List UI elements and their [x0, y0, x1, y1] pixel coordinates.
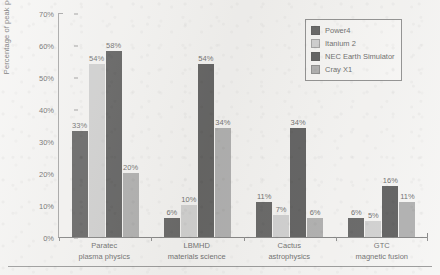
bar[interactable]: 5%: [365, 221, 381, 237]
y-axis-tick-label: 50%: [39, 74, 54, 83]
bar-value-label: 7%: [276, 205, 287, 214]
legend-item-label: NEC Earth Simulator: [325, 52, 395, 61]
category-field: materials science: [151, 252, 244, 263]
y-axis-tick-label: 10%: [39, 202, 54, 211]
bar[interactable]: 10%: [181, 205, 197, 237]
y-axis-tick-label: 70%: [39, 10, 54, 19]
grouped-bar-chart: Percentage of peak performance 0%10%20%3…: [0, 0, 440, 275]
category-name: GTC: [336, 241, 429, 252]
legend-item[interactable]: NEC Earth Simulator: [311, 50, 395, 63]
x-axis-category-labels: Paratecplasma physicsLBMHDmaterials scie…: [58, 241, 428, 262]
x-axis-category-label: Cactusastrophysics: [243, 241, 336, 262]
bar-value-label: 54%: [198, 54, 213, 63]
bar-value-label: 5%: [368, 211, 379, 220]
bar[interactable]: 7%: [273, 215, 289, 237]
category-name: Paratec: [58, 241, 151, 252]
y-axis-tick-label: 60%: [39, 42, 54, 51]
y-axis-tick-labels: 0%10%20%30%40%50%60%70%: [18, 14, 54, 238]
bar-value-label: 54%: [89, 54, 104, 63]
bar-slot: 10%: [181, 14, 197, 237]
legend-item[interactable]: Cray X1: [311, 63, 395, 76]
y-axis-tick-label: 40%: [39, 106, 54, 115]
bar[interactable]: 20%: [123, 173, 139, 237]
bar-slot: 11%: [256, 14, 272, 237]
bar-slot: 54%: [198, 14, 214, 237]
legend-item[interactable]: Power4: [311, 24, 395, 37]
bar-slot: 58%: [106, 14, 122, 237]
bar-value-label: 6%: [310, 208, 321, 217]
bar-slot: 6%: [164, 14, 180, 237]
bar-value-label: 16%: [383, 176, 398, 185]
category-field: magnetic fusion: [336, 252, 429, 263]
footer-divider: [8, 266, 432, 267]
legend-item-label: Power4: [325, 26, 350, 35]
bar-value-label: 34%: [291, 118, 306, 127]
bar[interactable]: 34%: [290, 128, 306, 237]
category-name: Cactus: [243, 241, 336, 252]
bar[interactable]: 58%: [106, 51, 122, 237]
bar-value-label: 11%: [400, 192, 414, 201]
x-axis-category-label: LBMHDmaterials science: [151, 241, 244, 262]
legend-swatch-icon: [311, 39, 320, 48]
bar-value-label: 6%: [351, 208, 362, 217]
bar[interactable]: 6%: [307, 218, 323, 237]
bar[interactable]: 16%: [382, 186, 398, 237]
bar-value-label: 58%: [106, 41, 121, 50]
bar[interactable]: 6%: [348, 218, 364, 237]
bar-group: 33%54%58%20%: [59, 14, 151, 237]
bar-value-label: 33%: [72, 121, 87, 130]
legend-swatch-icon: [311, 52, 320, 61]
y-axis-title: Percentage of peak performance: [2, 0, 11, 88]
legend-item[interactable]: Itanium 2: [311, 37, 395, 50]
category-name: LBMHD: [151, 241, 244, 252]
bar[interactable]: 11%: [399, 202, 415, 237]
bar[interactable]: 11%: [256, 202, 272, 237]
bar-group: 6%10%54%34%: [151, 14, 243, 237]
bar-slot: 7%: [273, 14, 289, 237]
bar[interactable]: 34%: [215, 128, 231, 237]
legend-item-label: Itanium 2: [325, 39, 356, 48]
category-field: plasma physics: [58, 252, 151, 263]
legend-item-label: Cray X1: [325, 65, 352, 74]
x-axis-category-label: GTCmagnetic fusion: [336, 241, 429, 262]
bar-slot: 34%: [215, 14, 231, 237]
bar[interactable]: 54%: [198, 64, 214, 237]
bar[interactable]: 6%: [164, 218, 180, 237]
bar-slot: 20%: [123, 14, 139, 237]
bar-slot: 34%: [290, 14, 306, 237]
bar-value-label: 20%: [123, 163, 138, 172]
bar-value-label: 11%: [257, 192, 271, 201]
category-field: astrophysics: [243, 252, 336, 263]
y-axis-tick-label: 0%: [43, 234, 54, 243]
bar-slot: 11%: [399, 14, 415, 237]
bar-slot: 33%: [72, 14, 88, 237]
legend-swatch-icon: [311, 65, 320, 74]
bar[interactable]: 54%: [89, 64, 105, 237]
y-axis-tick-label: 30%: [39, 138, 54, 147]
x-axis-category-label: Paratecplasma physics: [58, 241, 151, 262]
bar-value-label: 34%: [215, 118, 230, 127]
bar-slot: 54%: [89, 14, 105, 237]
y-axis-tick-label: 20%: [39, 170, 54, 179]
bar[interactable]: 33%: [72, 131, 88, 237]
bar-value-label: 10%: [181, 195, 196, 204]
chart-legend: Power4Itanium 2NEC Earth SimulatorCray X…: [305, 19, 402, 81]
legend-swatch-icon: [311, 26, 320, 35]
bar-value-label: 6%: [166, 208, 177, 217]
